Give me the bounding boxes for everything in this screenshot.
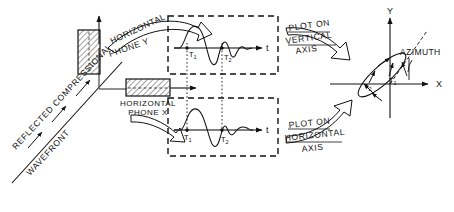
trace-x-t1-marker	[185, 128, 188, 131]
trace-x-t1-label: T1	[184, 133, 192, 143]
hodogram-y-axis-label: Y	[387, 6, 393, 16]
trace-y-t1-label: T1	[189, 50, 197, 60]
plot-vertical-callout: PLOT ON VERTICAL AXIS	[285, 17, 350, 60]
phone-y-callout-arrow: HORIZONTAL PHONE Y	[107, 11, 212, 58]
horizontal-phone-x-box	[126, 79, 170, 96]
azimuth-pointer	[402, 62, 407, 76]
hodogram-t2-label: T2	[364, 82, 372, 92]
trace-y-axis-label: t	[266, 43, 269, 53]
trace-panel-x: t T1 T2	[168, 98, 278, 156]
hodogram-group: X Y T1 T2 AZIMUTH	[330, 6, 442, 118]
reflected-wavefront-group: REFLECTED COMPRESSIONAL WAVEFRONT	[10, 42, 122, 183]
phone-x-callout-arrow	[131, 115, 185, 142]
plot-vertical-line3: AXIS	[295, 43, 318, 56]
plot-horizontal-callout: PLOT ON HORIZONTAL AXIS	[284, 100, 352, 154]
trace-x-t2-label: T2	[221, 135, 229, 145]
plot-horizontal-line3: AXIS	[301, 142, 324, 154]
diagram-svg: REFLECTED COMPRESSIONAL WAVEFRONT HORIZO…	[0, 0, 454, 212]
horizontal-phone-y-box	[78, 30, 100, 74]
trace-x-axis-label: t	[266, 125, 269, 135]
ellipse-direction-arrows	[364, 58, 390, 101]
hodogram-x-axis-label: X	[436, 79, 442, 89]
trace-x-frame	[168, 98, 278, 156]
azimuth-ray	[390, 31, 427, 84]
trace-y-waveform	[174, 26, 252, 64]
hodogram-t1-label: T1	[389, 76, 397, 86]
trace-x-t2-marker	[220, 128, 223, 131]
azimuth-label: AZIMUTH	[400, 47, 441, 57]
figure-canvas: REFLECTED COMPRESSIONAL WAVEFRONT HORIZO…	[0, 0, 454, 212]
